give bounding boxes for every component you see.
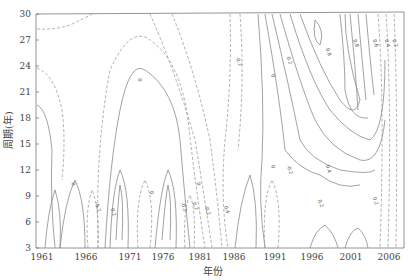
top-border (36, 12, 404, 14)
contour-label: 0.2 (286, 56, 294, 66)
contour-label: -0.2 (286, 164, 295, 175)
contour-label: 0.2 (192, 201, 200, 211)
x-tick-label: 1991 (264, 252, 287, 262)
y-tick-label: 24 (20, 61, 32, 71)
x-tick-label: 2001 (340, 252, 363, 262)
contour-label: 0.4 (223, 205, 231, 215)
contour-label: 0 (149, 190, 156, 195)
contour-label: 0.6 (372, 38, 380, 48)
contour-label: -0.2 (94, 201, 103, 212)
x-tick-label: 1971 (119, 252, 142, 262)
x-tick-label: 1986 (223, 252, 246, 262)
y-tick-label: 9 (25, 191, 31, 201)
contour-label: 0.4 (383, 38, 391, 48)
contour-label: 0.2 (109, 207, 117, 217)
y-tick-label: 15 (20, 139, 32, 149)
x-tick-label: 1996 (301, 252, 324, 262)
y-axis-title: 周期(年) (2, 111, 14, 149)
contour-label: 0 (196, 181, 203, 186)
y-tick-label: 12 (20, 165, 31, 175)
contour-label: 0.8 (325, 47, 333, 57)
x-tick-label: 1981 (189, 252, 212, 262)
x-tick-label: 1966 (75, 252, 98, 262)
contour-label: -0.2 (235, 56, 244, 67)
contour-lines (37, 14, 397, 248)
contour-label: 0.2 (317, 199, 325, 209)
y-tick-label: 30 (20, 9, 32, 19)
contour-label: 0 (137, 77, 144, 82)
contour-label: -0.2 (203, 205, 212, 216)
contour-label: 0.4 (325, 164, 333, 174)
contour-label: 0 (70, 181, 77, 186)
contour-label: 0.2 (391, 38, 399, 48)
y-tick-label: 6 (25, 217, 31, 227)
x-tick-label: 1976 (152, 252, 175, 262)
y-tick-label: 18 (20, 113, 32, 123)
wavelet-contour-chart: 36912151821242730 1961196619711976198119… (0, 0, 410, 280)
x-axis-title: 年份 (203, 265, 223, 277)
plot-area (36, 12, 404, 248)
x-tick-label: 1961 (31, 252, 54, 262)
x-axis-ticks: 1961196619711976198119861991199620012006 (31, 252, 401, 262)
x-tick-label: 2006 (378, 252, 401, 262)
contour-label: 0 (270, 164, 277, 169)
y-tick-label: 27 (20, 35, 32, 45)
y-tick-label: 21 (20, 87, 31, 97)
contour-label: 0.2 (372, 196, 380, 206)
